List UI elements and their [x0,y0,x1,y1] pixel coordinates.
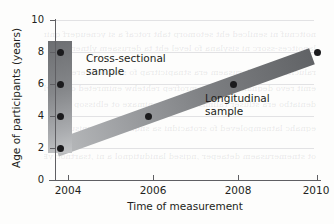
x-tick-mark [153,175,154,181]
x-tick-mark [68,175,69,181]
data-point-cross-age6 [57,81,64,88]
y-axis-title: Age of participants (years) [10,10,22,186]
gridline [56,148,314,149]
y-tick-mark [50,84,55,85]
x-tick-label-2006: 2006 [130,184,176,196]
y-tick-mark [50,52,55,53]
y-tick-mark [50,180,55,181]
annotation-cross-sectional: Cross-sectional sample [86,52,166,77]
y-tick-mark [50,20,55,21]
gridline [56,116,314,117]
x-tick-mark [238,175,239,181]
x-tick-mark [317,175,318,181]
y-tick-mark [50,116,55,117]
x-axis-title: Time of measurement [56,200,314,212]
data-point-cross-age2 [57,145,64,152]
figure-container: noitcnuf ni senilced eht setomorp taht r… [0,0,334,224]
x-tick-label-2010: 2010 [293,184,334,196]
x-axis-line [49,180,321,181]
y-tick-mark [50,148,55,149]
data-point-long-2008 [230,81,237,88]
plot-area: Cross-sectional sample Longitudinal samp… [56,20,314,180]
x-tick-label-2008: 2008 [215,184,261,196]
cross-sectional-band [48,41,72,153]
data-point-long-2010 [314,49,321,56]
data-point-cross-age4 [57,113,64,120]
x-tick-label-2004: 2004 [45,184,91,196]
gridline [56,84,314,85]
gridline [56,20,314,21]
annotation-longitudinal: Longitudinal sample [205,92,270,117]
data-point-long-2006 [145,113,152,120]
y-axis-line [55,19,56,181]
data-point-cross-age8 [57,49,64,56]
